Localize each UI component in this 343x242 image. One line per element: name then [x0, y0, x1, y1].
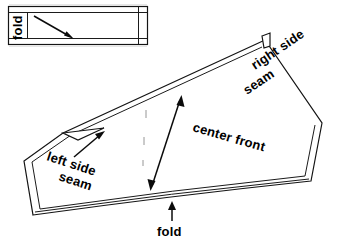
- fold-pointer-arrow: [168, 201, 176, 221]
- waistband-fold-label: fold: [10, 15, 25, 40]
- pattern-diagram-canvas: fold: [0, 0, 343, 242]
- skirt-outer-cutline: [24, 40, 322, 215]
- pattern-diagram: fold: [0, 0, 343, 242]
- waistband-piece-group: [9, 7, 148, 45]
- bottom-fold-label: fold: [157, 224, 182, 239]
- bottom-fold-label-group: fold: [157, 224, 182, 239]
- waistband-fold-label-group: fold: [10, 15, 25, 40]
- skirt-piece-group: [24, 33, 322, 215]
